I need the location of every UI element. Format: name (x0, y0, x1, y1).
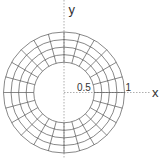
grid-spoke (6, 77, 35, 85)
grid-spoke (48, 34, 56, 63)
grid-spoke (21, 114, 42, 135)
x-axis-label: x (152, 85, 159, 100)
grid-spoke (93, 100, 122, 108)
grid-spoke (72, 34, 80, 63)
tick-label-inner-radius: 0.5 (77, 82, 91, 93)
grid-spoke (85, 50, 106, 71)
y-axis-label: y (69, 2, 76, 17)
tick-label-outer-radius: 1 (126, 82, 132, 93)
grid-spoke (21, 50, 42, 71)
grid-spoke (6, 100, 35, 108)
grid-spoke (48, 122, 56, 151)
grid-spoke (93, 77, 122, 85)
polar-grid-diagram: y x 0.5 1 (0, 0, 165, 159)
grid-spoke (72, 122, 80, 151)
grid-spoke (85, 114, 106, 135)
